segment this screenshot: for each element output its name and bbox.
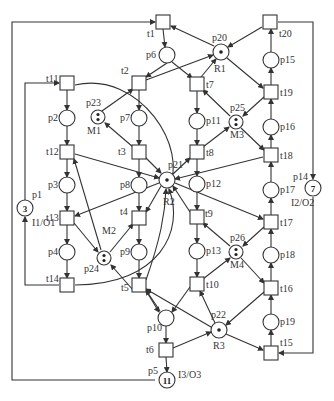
svg-text:R3: R3 — [213, 340, 225, 351]
place-p26-M4: p26M4 — [229, 232, 245, 270]
svg-text:p17: p17 — [280, 184, 295, 195]
svg-text:M4: M4 — [230, 259, 244, 270]
transition-t15: t15 — [264, 337, 293, 360]
place-p8: p8 — [120, 177, 147, 193]
place-p3: p3 — [48, 177, 75, 193]
transition-t3: t3 — [118, 145, 146, 159]
transition-t9: t9 — [190, 208, 213, 224]
svg-text:t10: t10 — [206, 279, 219, 290]
svg-text:p22: p22 — [211, 309, 226, 320]
svg-text:I2/O2: I2/O2 — [291, 197, 314, 208]
svg-text:p3: p3 — [48, 179, 58, 190]
transition-t4: t4 — [120, 206, 146, 225]
place-p15: p15 — [263, 52, 295, 68]
svg-text:p6: p6 — [146, 49, 156, 60]
svg-text:p16: p16 — [280, 121, 295, 132]
petri-net-diagram: 3p1I1/O1 p2 p3 p4 11p5I3/O3 p6 p7 p8 p9 … — [0, 0, 334, 401]
place-p4: p4 — [48, 244, 75, 260]
svg-text:t19: t19 — [280, 87, 293, 98]
svg-text:t1: t1 — [147, 28, 155, 39]
transition-t8: t8 — [190, 145, 214, 159]
place-p7: p7 — [120, 110, 147, 126]
place-p17: p17 — [263, 182, 295, 198]
place-p18: p18 — [263, 247, 295, 263]
place-p20-R1: p20R1 — [212, 32, 229, 74]
svg-text:t12: t12 — [46, 146, 59, 157]
svg-text:t13: t13 — [46, 212, 59, 223]
svg-text:7: 7 — [311, 184, 316, 194]
place-p14: 7p14I2/O2 — [291, 171, 321, 208]
svg-text:p1: p1 — [32, 189, 42, 200]
svg-text:p23: p23 — [86, 97, 101, 108]
svg-text:p10: p10 — [147, 322, 162, 333]
svg-text:p4: p4 — [48, 246, 58, 257]
svg-text:t9: t9 — [205, 208, 213, 219]
svg-text:t16: t16 — [280, 283, 293, 294]
svg-text:t8: t8 — [206, 147, 214, 158]
place-p24-M2: p24M2 — [84, 225, 116, 274]
transition-t12: t12 — [46, 145, 74, 159]
place-p5: 11p5I3/O3 — [148, 365, 201, 388]
svg-text:p8: p8 — [120, 179, 130, 190]
transition-t2: t2 — [121, 65, 146, 90]
svg-text:R2: R2 — [163, 196, 175, 207]
svg-text:p2: p2 — [48, 112, 58, 123]
svg-text:p25: p25 — [230, 102, 245, 113]
svg-text:p5: p5 — [148, 365, 158, 376]
svg-text:p18: p18 — [280, 249, 295, 260]
svg-text:t6: t6 — [146, 344, 154, 355]
petri-net-svg: 3p1I1/O1 p2 p3 p4 11p5I3/O3 p6 p7 p8 p9 … — [0, 0, 334, 401]
svg-text:t4: t4 — [120, 206, 128, 217]
place-p9: p9 — [120, 244, 147, 260]
svg-text:M2: M2 — [102, 225, 116, 236]
svg-text:p14: p14 — [293, 171, 308, 182]
transition-t13: t13 — [46, 211, 74, 225]
svg-text:p24: p24 — [84, 263, 99, 274]
svg-text:p15: p15 — [280, 54, 295, 65]
svg-text:M1: M1 — [87, 125, 101, 136]
svg-text:t20: t20 — [279, 28, 292, 39]
svg-text:M3: M3 — [230, 129, 244, 140]
svg-text:I3/O3: I3/O3 — [178, 369, 201, 380]
transition-t18: t18 — [264, 148, 293, 162]
svg-text:t3: t3 — [118, 146, 126, 157]
transition-t19: t19 — [264, 85, 293, 99]
place-p13: p13 — [189, 243, 221, 259]
svg-text:p26: p26 — [230, 232, 245, 243]
svg-text:p20: p20 — [212, 32, 227, 43]
transition-t10: t10 — [190, 277, 219, 291]
svg-text:t2: t2 — [121, 65, 129, 76]
place-p12: p12 — [189, 176, 221, 192]
svg-text:p7: p7 — [120, 112, 130, 123]
transition-t16: t16 — [264, 281, 293, 295]
place-p6: p6 — [146, 47, 175, 63]
svg-text:3: 3 — [23, 204, 28, 214]
place-p2: p2 — [48, 110, 75, 126]
svg-text:11: 11 — [163, 376, 172, 386]
svg-text:p13: p13 — [206, 245, 221, 256]
place-p10: p10 — [147, 310, 174, 333]
place-p11: p11 — [189, 113, 221, 129]
svg-text:t18: t18 — [280, 150, 293, 161]
transition-t1: t1 — [147, 15, 170, 39]
place-p23-M1: p23M1 — [86, 97, 105, 136]
svg-text:t17: t17 — [280, 217, 293, 228]
transition-t11: t11 — [46, 73, 74, 90]
svg-text:t5: t5 — [121, 282, 129, 293]
svg-text:p11: p11 — [206, 115, 221, 126]
svg-text:p12: p12 — [206, 178, 221, 189]
place-p16: p16 — [263, 119, 295, 135]
svg-text:t7: t7 — [206, 79, 214, 90]
transition-t20: t20 — [263, 15, 292, 39]
place-p19: p19 — [263, 314, 295, 330]
svg-text:t11: t11 — [46, 73, 58, 84]
svg-text:p19: p19 — [280, 316, 295, 327]
svg-text:p9: p9 — [120, 246, 130, 257]
place-p25-M3: p25M3 — [229, 102, 245, 140]
transition-t17: t17 — [264, 215, 293, 229]
place-p21-R2: p21R2 — [159, 159, 183, 207]
svg-text:p21: p21 — [168, 159, 183, 170]
svg-text:t15: t15 — [280, 337, 293, 348]
transition-t6: t6 — [146, 343, 173, 357]
svg-text:t14: t14 — [46, 273, 59, 284]
